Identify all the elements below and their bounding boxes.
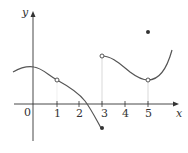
open-point-x5 [146, 78, 150, 82]
function-graph: 0 1 2 3 4 5 x y [0, 0, 188, 153]
x-tick-label-3: 3 [101, 107, 108, 120]
origin-label: 0 [24, 106, 31, 119]
x-axis-arrow-icon [173, 102, 179, 107]
x-axis-label: x [176, 107, 183, 120]
x-tick-label-1: 1 [54, 107, 61, 120]
x-tick-label-5: 5 [145, 107, 152, 120]
y-axis-arrow-icon [31, 11, 36, 17]
open-point-x3 [100, 54, 104, 58]
closed-point-x3 [100, 126, 104, 130]
x-tick-label-4: 4 [122, 107, 129, 120]
curve-piece-2 [102, 50, 172, 80]
closed-point-x5 [146, 30, 150, 34]
open-point-x1 [55, 78, 59, 82]
y-axis-label: y [21, 6, 29, 19]
x-tick-label-2: 2 [76, 107, 83, 120]
